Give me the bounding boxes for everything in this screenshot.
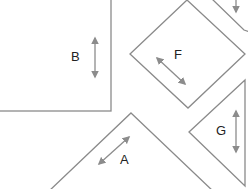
tangram-diagram: B F A G (0, 0, 248, 189)
piece-label-b: B (71, 49, 80, 64)
piece-label-a: A (120, 152, 129, 167)
piece-f[interactable]: F (130, 0, 245, 108)
piece-a[interactable]: A (48, 113, 214, 189)
triangle-shape (48, 113, 214, 189)
piece-b[interactable]: B (0, 0, 111, 111)
piece-label-g: G (216, 123, 226, 138)
diamond-shape (130, 0, 245, 108)
piece-label-f: F (174, 47, 182, 62)
